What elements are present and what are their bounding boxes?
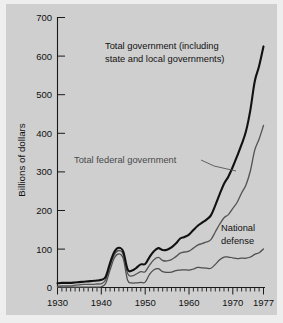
- annotation-total-federal: Total federal government: [74, 155, 236, 171]
- y-axis-title: Billions of dollars: [16, 123, 27, 197]
- x-tick-label-1950: 1950: [135, 297, 156, 308]
- y-tick-label-500: 500: [36, 89, 52, 100]
- annotation-national-defense-line1: National: [221, 223, 255, 233]
- series-total-federal-government: [58, 126, 264, 287]
- x-tick-label-1977: 1977: [253, 297, 274, 308]
- annotation-total-government-line1: Total government (including: [105, 41, 219, 51]
- y-tick-label-200: 200: [36, 205, 52, 216]
- series-group: [58, 46, 264, 287]
- y-tick-label-400: 400: [36, 128, 52, 139]
- y-axis: 700 600 500 400 300 200 100 0 Billions o…: [16, 12, 65, 293]
- x-minor-ticks: [62, 288, 259, 292]
- x-tick-label-1940: 1940: [91, 297, 112, 308]
- x-axis: 1930 1940 1950 1960 1970 1977: [47, 288, 274, 309]
- annotation-national-defense: National defense: [221, 223, 255, 246]
- annotation-total-government-line2: state and local governments): [105, 54, 224, 64]
- y-tick-label-0: 0: [47, 282, 52, 293]
- x-tick-label-1960: 1960: [178, 297, 199, 308]
- y-tick-label-700: 700: [36, 12, 52, 23]
- annotation-total-government: Total government (including state and lo…: [105, 41, 224, 64]
- annotation-total-federal-label: Total federal government: [74, 155, 177, 165]
- annotation-national-defense-line2: defense: [221, 236, 254, 246]
- y-tick-label-100: 100: [36, 244, 52, 255]
- y-tick-label-300: 300: [36, 166, 52, 177]
- x-tick-label-1970: 1970: [222, 297, 243, 308]
- line-chart: 700 600 500 400 300 200 100 0 Billions o…: [0, 0, 283, 323]
- leader-line-total-federal: [201, 160, 236, 171]
- x-tick-label-1930: 1930: [47, 297, 68, 308]
- y-tick-label-600: 600: [36, 51, 52, 62]
- figure-container: 700 600 500 400 300 200 100 0 Billions o…: [0, 0, 283, 323]
